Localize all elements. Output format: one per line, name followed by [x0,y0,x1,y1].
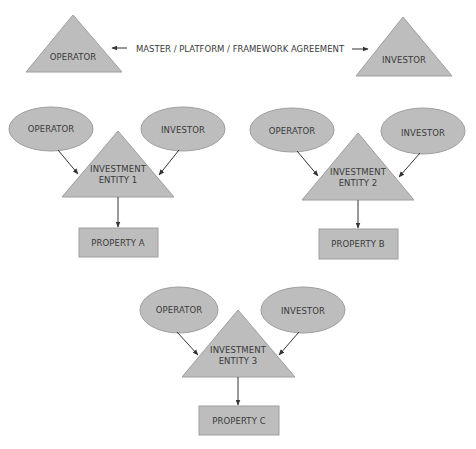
s3-investor-label: INVESTOR [281,306,325,317]
s1-investor-arrow [159,150,179,175]
s2-entity-line1: INVESTMENT [330,167,386,178]
s2-investor-arrow [399,153,420,177]
s1-entity-line1: INVESTMENT [90,164,146,175]
s3-entity-label: INVESTMENT ENTITY 3 [210,345,266,367]
s1-operator-arrow [58,150,78,174]
s2-entity-label: INVESTMENT ENTITY 2 [330,167,386,189]
s2-entity-line2: ENTITY 2 [330,178,386,189]
s2-property-label: PROPERTY B [331,239,384,250]
s1-entity-line2: ENTITY 1 [90,175,146,186]
diagram-shapes [0,0,476,449]
s2-investor-label: INVESTOR [401,128,445,139]
s3-operator-label: OPERATOR [156,305,203,316]
s1-investor-label: INVESTOR [161,125,205,136]
top-investor-triangle [356,17,452,76]
s3-operator-arrow [177,332,198,355]
top-operator-label: OPERATOR [50,52,97,63]
s1-property-label: PROPERTY A [91,238,144,249]
s2-operator-label: OPERATOR [269,126,316,137]
s3-entity-line1: INVESTMENT [210,345,266,356]
s3-entity-line2: ENTITY 3 [210,356,266,367]
top-investor-label: INVESTOR [382,55,426,66]
top-operator-triangle [26,15,122,72]
s3-property-label: PROPERTY C [212,416,266,427]
s2-operator-arrow [297,151,318,176]
diagram-canvas: OPERATOR INVESTOR MASTER / PLATFORM / FR… [0,0,476,449]
s1-operator-label: OPERATOR [28,124,75,135]
agreement-label: MASTER / PLATFORM / FRAMEWORK AGREEMENT [136,44,344,54]
s1-entity-label: INVESTMENT ENTITY 1 [90,164,146,186]
s3-investor-arrow [279,332,299,355]
